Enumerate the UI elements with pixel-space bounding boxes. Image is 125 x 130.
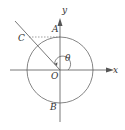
point-c-label: C (18, 34, 25, 43)
y-axis-label: y (62, 6, 67, 15)
angle-theta-label: θ (65, 54, 70, 63)
x-axis-label: x (113, 66, 118, 75)
origin-label: O (51, 72, 58, 81)
diagram: y x O A B C θ (0, 0, 125, 130)
point-b-label: B (50, 103, 57, 112)
diagram-canvas (0, 0, 125, 130)
point-a-label: A (52, 25, 59, 34)
